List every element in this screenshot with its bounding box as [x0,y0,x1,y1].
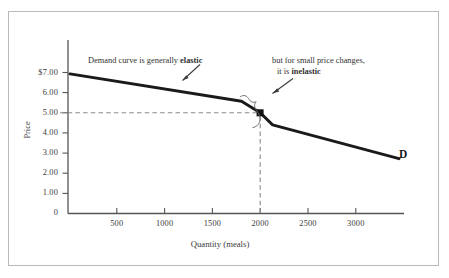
x-axis-ticks [117,208,356,214]
annotation-inelastic-line1: but for small price changes, [272,56,365,65]
figure-container: $7.00 6.00 5.00 4.00 3.00 2.00 1.00 0 50… [0,0,449,278]
plot-area [0,0,449,278]
x-axis-title: Quantity (meals) [130,239,310,249]
x-tick-label: 1500 [192,219,232,228]
brace-inelastic-segment [241,95,261,127]
y-tick-label: 2.00 [16,168,58,177]
annotation-elastic: Demand curve is generally elastic [88,55,202,66]
y-tick-label: 0 [16,208,58,217]
annotation-elastic-emphasis: elastic [180,56,202,65]
demand-curve-label: D [399,148,407,160]
y-tick-label: $7.00 [16,68,58,77]
annotation-inelastic: but for small price changes,it is inelas… [272,55,365,77]
annotation-arrow-elastic [183,65,201,81]
demand-curve [70,74,399,159]
x-tick-label: 2000 [240,219,280,228]
x-tick-label: 2500 [288,219,328,228]
y-axis-ticks [63,73,69,194]
y-tick-label: 6.00 [16,88,58,97]
x-tick-label: 1000 [145,219,185,228]
x-tick-label: 3000 [336,219,376,228]
x-tick-label: 500 [97,219,137,228]
y-axis-title: Price [23,110,32,150]
y-tick-label: 1.00 [16,188,58,197]
annotation-arrow-inelastic [273,79,294,94]
annotation-elastic-prefix: Demand curve is generally [88,56,180,65]
annotation-inelastic-emphasis: inelastic [291,67,320,76]
annotation-inelastic-line2-prefix: it is [277,67,291,76]
